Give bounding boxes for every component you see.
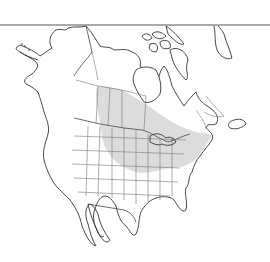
range-map <box>0 0 270 262</box>
map-canvas <box>0 0 270 262</box>
greenland-coast <box>214 26 232 59</box>
newfoundland <box>229 119 247 129</box>
